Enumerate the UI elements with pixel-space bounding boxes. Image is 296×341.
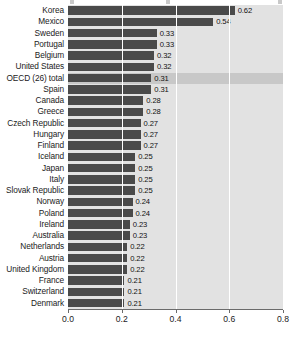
- chart-row: Hungary0.27: [0, 129, 296, 140]
- bar-value-label: 0.24: [136, 196, 150, 207]
- category-label: Poland: [0, 208, 64, 219]
- chart-row: Portugal0.33: [0, 39, 296, 50]
- category-label: Mexico: [0, 16, 64, 27]
- bar-value-label: 0.22: [130, 264, 144, 275]
- category-label: Portugal: [0, 39, 64, 50]
- category-label: France: [0, 275, 64, 286]
- bar-value-label: 0.25: [138, 185, 152, 196]
- category-label: United States: [0, 61, 64, 72]
- bar-value-label: 0.28: [146, 106, 160, 117]
- chart-row: Denmark0.21: [0, 298, 296, 309]
- category-label: Slovak Republic: [0, 185, 64, 196]
- category-label: Czech Republic: [0, 118, 64, 129]
- bar: [68, 153, 135, 161]
- category-label: Norway: [0, 196, 64, 207]
- bar: [68, 186, 135, 194]
- category-label: Korea: [0, 5, 64, 16]
- chart-row: Austria0.22: [0, 253, 296, 264]
- crop-artifact-right: [278, 0, 282, 4]
- category-label: Australia: [0, 230, 64, 241]
- bar: [68, 265, 127, 273]
- chart-row: Finland0.27: [0, 140, 296, 151]
- bar-value-label: 0.23: [133, 230, 147, 241]
- chart-row: Switzerland0.21: [0, 286, 296, 297]
- category-label: Denmark: [0, 298, 64, 309]
- bar: [68, 74, 151, 82]
- chart-row: France0.21: [0, 275, 296, 286]
- category-label: Switzerland: [0, 286, 64, 297]
- bar-value-label: 0.62: [238, 5, 252, 16]
- bar-value-label: 0.33: [160, 39, 174, 50]
- bar: [68, 29, 157, 37]
- bar: [68, 40, 157, 48]
- bar-value-label: 0.25: [138, 151, 152, 162]
- bar: [68, 51, 154, 59]
- chart-row: Spain0.31: [0, 84, 296, 95]
- bar-value-label: 0.24: [136, 208, 150, 219]
- chart-row: OECD (26) total0.31: [0, 73, 296, 84]
- category-label: Spain: [0, 84, 64, 95]
- bar: [68, 63, 154, 71]
- bar-value-label: 0.33: [160, 28, 174, 39]
- bar: [68, 220, 130, 228]
- bar-value-label: 0.21: [127, 298, 141, 309]
- bar-value-label: 0.54: [216, 16, 230, 27]
- chart-row: Slovak Republic0.25: [0, 185, 296, 196]
- bar: [68, 209, 133, 217]
- x-tick-label: 0.0: [48, 314, 88, 324]
- bar-value-label: 0.23: [133, 219, 147, 230]
- x-tick: [229, 310, 230, 313]
- bar-value-label: 0.31: [154, 73, 168, 84]
- chart-row: Iceland0.25: [0, 151, 296, 162]
- bar-value-label: 0.28: [146, 95, 160, 106]
- chart-row: Poland0.24: [0, 208, 296, 219]
- category-label: Netherlands: [0, 241, 64, 252]
- bar-value-label: 0.22: [130, 253, 144, 264]
- x-tick: [68, 310, 69, 313]
- category-label: Sweden: [0, 28, 64, 39]
- bar: [68, 119, 141, 127]
- category-label: Italy: [0, 174, 64, 185]
- category-label: Austria: [0, 253, 64, 264]
- category-label: OECD (26) total: [0, 73, 64, 84]
- category-label: Ireland: [0, 219, 64, 230]
- crop-artifact-left: [70, 0, 74, 4]
- chart-row: Mexico0.54: [0, 16, 296, 27]
- bar: [68, 18, 213, 26]
- bar: [68, 276, 124, 284]
- bar-chart: Korea0.62Mexico0.54Sweden0.33Portugal0.3…: [0, 0, 296, 341]
- chart-row: Belgium0.32: [0, 50, 296, 61]
- chart-row: Italy0.25: [0, 174, 296, 185]
- chart-row: Netherlands0.22: [0, 241, 296, 252]
- x-tick-label: 0.8: [263, 314, 296, 324]
- category-label: Japan: [0, 163, 64, 174]
- category-label: Canada: [0, 95, 64, 106]
- bar-value-label: 0.32: [157, 61, 171, 72]
- chart-row: Greece0.28: [0, 106, 296, 117]
- chart-row: Japan0.25: [0, 163, 296, 174]
- chart-row: United Kingdom0.22: [0, 264, 296, 275]
- bar-value-label: 0.27: [144, 129, 158, 140]
- chart-row: Australia0.23: [0, 230, 296, 241]
- category-label: Iceland: [0, 151, 64, 162]
- bar: [68, 243, 127, 251]
- bar: [68, 231, 130, 239]
- x-tick-label: 0.2: [102, 314, 142, 324]
- x-tick: [176, 310, 177, 313]
- category-label: United Kingdom: [0, 264, 64, 275]
- bar-value-label: 0.27: [144, 140, 158, 151]
- bar-value-label: 0.27: [144, 118, 158, 129]
- bar: [68, 164, 135, 172]
- bar: [68, 6, 235, 14]
- category-label: Hungary: [0, 129, 64, 140]
- bar-value-label: 0.32: [157, 50, 171, 61]
- x-tick-label: 0.4: [156, 314, 196, 324]
- x-axis-tick-labels: 0.00.20.40.60.8: [0, 314, 296, 328]
- chart-row: Czech Republic0.27: [0, 118, 296, 129]
- bar-value-label: 0.22: [130, 241, 144, 252]
- bar: [68, 254, 127, 262]
- bar: [68, 141, 141, 149]
- chart-row: Sweden0.33: [0, 28, 296, 39]
- x-tick: [122, 310, 123, 313]
- category-label: Belgium: [0, 50, 64, 61]
